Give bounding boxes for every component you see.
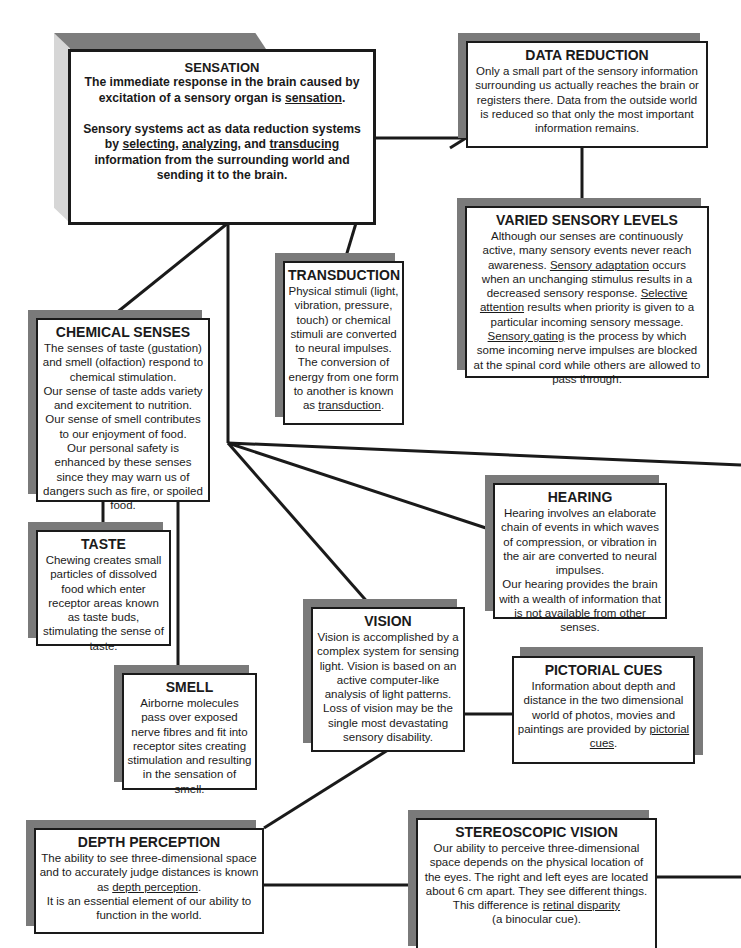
term-transducing: transducing [269, 137, 339, 151]
node-title: DATA REDUCTION [474, 47, 700, 64]
term-sensory-gating: Sensory gating [488, 330, 565, 342]
node-title: VISION [316, 613, 460, 630]
node-text: The ability to see three-dimensional spa… [39, 851, 259, 922]
term-sensory-adaptation: Sensory adaptation [550, 259, 649, 271]
node-title: STEREOSCOPIC VISION [421, 824, 652, 841]
node-title: SENSATION [81, 60, 363, 75]
term-transduction: transduction [318, 399, 381, 411]
node-text: Chewing creates small particles of disso… [41, 553, 166, 653]
node-title: TRANSDUCTION [288, 267, 399, 284]
term-retinal-disparity: retinal disparity [543, 899, 620, 911]
term-sensation: sensation [285, 91, 342, 105]
term-depth-perception: depth perception [112, 881, 198, 893]
node-title: SMELL [127, 679, 252, 696]
node-title: HEARING [498, 489, 662, 506]
node-text: Hearing involves an elaborate chain of e… [498, 506, 662, 635]
connector-trunk-right [228, 443, 741, 465]
node-text: The senses of taste (gustation) and smel… [41, 341, 205, 513]
node-text: The immediate response in the brain caus… [81, 75, 363, 184]
node-title: PICTORIAL CUES [517, 662, 690, 679]
node-title: DEPTH PERCEPTION [39, 834, 259, 851]
node-text: Only a small part of the sensory informa… [474, 64, 700, 135]
node-text: Although our senses are continuously act… [473, 229, 701, 386]
node-text: Information about depth and distance in … [517, 679, 690, 750]
node-title: CHEMICAL SENSES [41, 324, 205, 341]
node-title: VARIED SENSORY LEVELS [473, 212, 701, 229]
term-selecting: selecting [122, 137, 175, 151]
term-analyzing: analyzing [182, 137, 238, 151]
node-text: Vision is accomplished by a complex syst… [316, 630, 460, 744]
node-text: Airborne molecules pass over exposed ner… [127, 696, 252, 796]
node-text: Physical stimuli (light, vibration, pres… [288, 284, 399, 413]
connector-to-depth [264, 750, 388, 828]
node-title: TASTE [41, 536, 166, 553]
connector-to-chemical [110, 223, 228, 318]
node-text: Our ability to perceive three-dimensiona… [421, 841, 652, 927]
box-bevel-top [54, 33, 266, 49]
